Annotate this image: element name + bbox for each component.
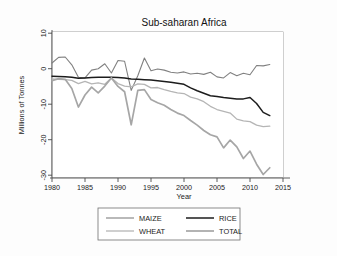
x-axis-title: Year	[177, 192, 192, 201]
legend-label-rice: RICE	[219, 214, 237, 223]
y-tick-label: 10	[39, 29, 48, 37]
x-tick-label: 2000	[176, 183, 192, 192]
y-tick-label: -10	[39, 99, 48, 109]
x-tick-label: 2015	[275, 183, 291, 192]
x-tick-label: 2010	[242, 183, 258, 192]
x-tick-label: 2005	[209, 183, 225, 192]
x-tick-label: 1990	[110, 183, 126, 192]
y-tick-label: -20	[39, 135, 48, 145]
legend-label-wheat: WHEAT	[139, 227, 166, 236]
legend-label-total: TOTAL	[219, 227, 242, 236]
y-axis-title: Millions of Tonnes	[17, 75, 26, 134]
chart-title: Sub-saharan Africa	[141, 17, 226, 28]
chart-screenshot: Sub-saharan Africa 10 0 -10 -20 -30 Mill…	[0, 0, 337, 256]
y-tick-label: 0	[39, 67, 48, 71]
x-tick-label: 1985	[77, 183, 93, 192]
x-tick-label: 1980	[44, 183, 60, 192]
line-chart: Sub-saharan Africa 10 0 -10 -20 -30 Mill…	[0, 0, 337, 256]
x-tick-label: 1995	[143, 183, 159, 192]
y-tick-label: -30	[39, 170, 48, 180]
plot-area-background	[52, 32, 283, 177]
legend-label-maize: MAIZE	[139, 214, 162, 223]
chart-figure: Sub-saharan Africa 10 0 -10 -20 -30 Mill…	[0, 0, 337, 256]
